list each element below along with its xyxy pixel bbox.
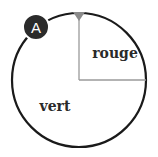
badge: A [23,14,49,40]
badge-label: A [31,19,41,36]
sector-label-vert: vert [39,98,71,114]
sector-label-rouge: rouge [92,45,138,61]
spinner-diagram: rouge vert A [0,0,158,157]
